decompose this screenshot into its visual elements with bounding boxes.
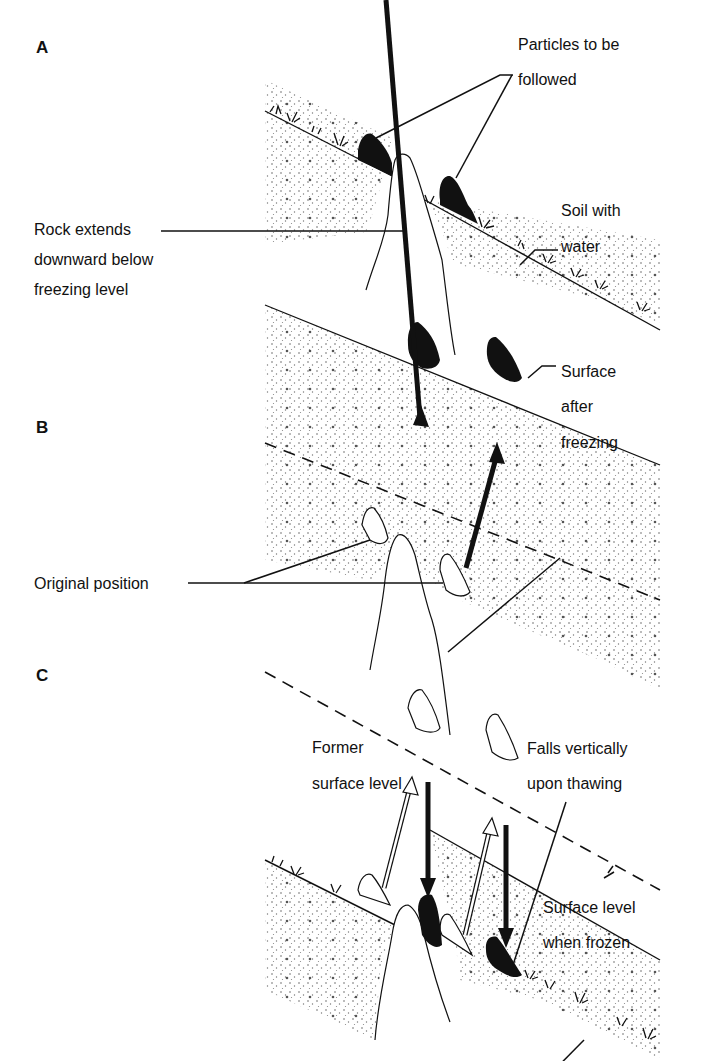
label-surface-after-3: freezing (561, 432, 618, 453)
label-original-position: Original position (34, 573, 149, 594)
panel-c-drawing (265, 672, 660, 1061)
label-surface-after-1: Surface (561, 361, 616, 382)
label-former-1: Former (312, 737, 364, 758)
particle-black-b2 (487, 337, 522, 382)
panel-label-c: C (36, 666, 48, 686)
label-surface-after-2: after (561, 396, 593, 417)
label-former-2: surface level (312, 773, 402, 794)
label-soil-1: Soil with (561, 200, 621, 221)
panel-label-a: A (36, 38, 48, 58)
panel-label-b: B (36, 418, 48, 438)
label-particles-1: Particles to be (518, 34, 619, 55)
label-soil-2: water (561, 236, 600, 257)
label-rock-2: downward below (34, 249, 153, 270)
frozen-particle-2 (486, 714, 518, 760)
label-falls-1: Falls vertically (527, 738, 627, 759)
label-falls-2: upon thawing (527, 773, 622, 794)
label-frozen-2: when frozen (543, 932, 630, 953)
label-frozen-1: Surface level (543, 897, 636, 918)
label-rock-3: freezing level (34, 279, 128, 300)
label-particles-2: followed (518, 69, 577, 90)
label-rock-1: Rock extends (34, 219, 131, 240)
